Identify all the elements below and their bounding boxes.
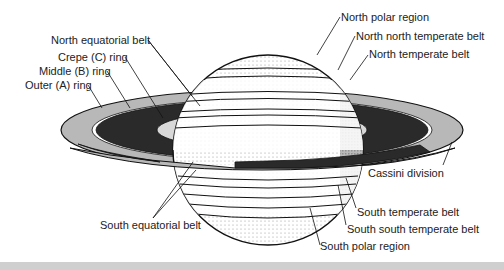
label-south-polar-region: South polar region [320,240,410,252]
label-outer-ring: Outer (A) ring [25,79,92,91]
label-south-temperate-belt: South temperate belt [357,206,459,218]
label-crepe-ring: Crepe (C) ring [58,51,128,63]
label-north-polar-region: North polar region [341,11,429,23]
label-north-equatorial-belt: North equatorial belt [51,34,150,46]
label-middle-ring: Middle (B) ring [39,65,111,77]
label-north-north-temperate-belt: North north temperate belt [356,30,484,42]
label-south-equatorial-belt: South equatorial belt [100,219,201,231]
bottom-band [0,262,504,270]
planet-globe [170,55,370,245]
label-north-temperate-belt: North temperate belt [369,48,469,60]
label-south-south-temperate-belt: South south temperate belt [347,223,479,235]
label-cassini-division: Cassini division [368,167,444,179]
